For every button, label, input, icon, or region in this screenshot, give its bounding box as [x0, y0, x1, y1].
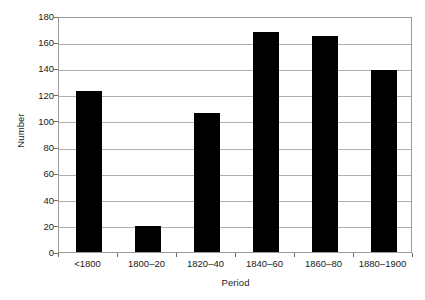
- y-axis-tick-label: 60: [14, 169, 54, 179]
- plot-area: [58, 17, 412, 253]
- y-axis-tick-label: 20: [14, 222, 54, 232]
- bar-chart: Number 020406080100120140160180 <1800180…: [0, 0, 425, 300]
- x-axis-tick-label: <1800: [58, 259, 117, 269]
- x-axis-tick-label: 1860–80: [294, 259, 353, 269]
- y-axis-title: Number: [15, 91, 26, 171]
- y-axis-tick-label: 160: [14, 38, 54, 48]
- y-axis-tick-label: 40: [14, 196, 54, 206]
- x-axis-tick-label: 1800–20: [117, 259, 176, 269]
- bar: [312, 36, 338, 252]
- bar: [76, 91, 102, 252]
- y-axis-tick-label: 120: [14, 91, 54, 101]
- y-axis-tick-label: 100: [14, 117, 54, 127]
- x-axis-tick-mark: [176, 253, 177, 257]
- x-axis-tick-mark: [412, 253, 413, 257]
- bar: [371, 70, 397, 252]
- y-axis-tick-label: 140: [14, 64, 54, 74]
- gridline: [59, 96, 411, 97]
- x-axis-tick-label: 1880–1900: [353, 259, 412, 269]
- gridline: [59, 122, 411, 123]
- x-axis-tick-label: 1820–40: [176, 259, 235, 269]
- x-axis-tick-mark: [353, 253, 354, 257]
- gridline: [59, 44, 411, 45]
- gridline: [59, 201, 411, 202]
- gridline: [59, 149, 411, 150]
- bar: [135, 226, 161, 252]
- x-axis-tick-label: 1840–60: [235, 259, 294, 269]
- x-axis-tick-mark: [235, 253, 236, 257]
- y-axis-tick-label: 180: [14, 12, 54, 22]
- gridline: [59, 175, 411, 176]
- y-axis-tick-label: 80: [14, 143, 54, 153]
- x-axis-tick-mark: [58, 253, 59, 257]
- x-axis-tick-mark: [117, 253, 118, 257]
- x-axis-title: Period: [58, 277, 413, 288]
- y-axis-tick-label: 0: [14, 248, 54, 258]
- x-axis-tick-mark: [294, 253, 295, 257]
- gridline: [59, 227, 411, 228]
- gridline: [59, 70, 411, 71]
- bar: [194, 113, 220, 252]
- bar: [253, 32, 279, 252]
